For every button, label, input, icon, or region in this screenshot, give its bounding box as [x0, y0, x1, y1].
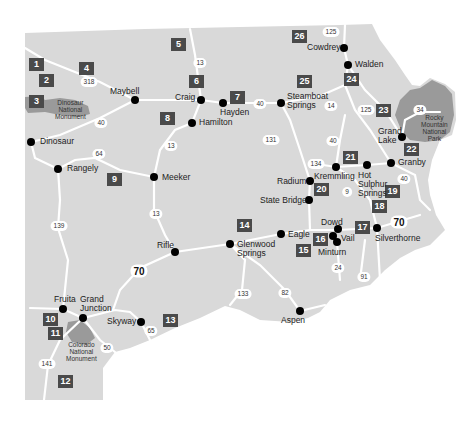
- highway-shield-91: 91: [357, 272, 370, 282]
- town-dot-walden[interactable]: [344, 61, 352, 69]
- highway-shield-133: 133: [235, 289, 252, 299]
- region-badge-20[interactable]: 20: [314, 183, 329, 196]
- highway-shield-131: 131: [263, 135, 280, 145]
- town-dot-radium[interactable]: [306, 177, 314, 185]
- highway-shield-40-west: 40: [94, 118, 107, 128]
- town-dot-granby[interactable]: [387, 159, 395, 167]
- interstate-shield-70-east: 70: [390, 216, 407, 229]
- label-line: Junction: [80, 304, 112, 313]
- highway-shield-139: 139: [51, 221, 68, 231]
- highway-shield-318: 318: [81, 77, 98, 87]
- town-dot-glenwood-springs[interactable]: [226, 240, 234, 248]
- highway-shield-13-north: 13: [193, 58, 206, 68]
- region-badge-3[interactable]: 3: [29, 95, 44, 108]
- town-dot-dinosaur[interactable]: [27, 138, 35, 146]
- park-label-line: Colorado: [66, 341, 97, 348]
- park-label-line: National: [55, 106, 86, 113]
- park-label-line: Monument: [55, 113, 86, 120]
- town-label-rifle: Rifle: [157, 241, 174, 250]
- highway-shield-82: 82: [278, 288, 291, 298]
- park-label-line: Park: [421, 135, 448, 142]
- region-badge-21[interactable]: 21: [343, 151, 358, 164]
- highway-shield-34: 34: [413, 105, 426, 115]
- region-badge-17[interactable]: 17: [355, 221, 370, 234]
- park-label-line: Dinosaur: [55, 99, 86, 106]
- region-badge-1[interactable]: 1: [29, 58, 44, 71]
- town-dot-eagle[interactable]: [277, 230, 285, 238]
- town-dot-hayden[interactable]: [219, 99, 227, 107]
- highway-shield-9: 9: [342, 187, 352, 197]
- town-dot-steamboat-springs[interactable]: [277, 99, 285, 107]
- region-badge-4[interactable]: 4: [79, 62, 94, 75]
- colorado-national-monument-label: Colorado National Monument: [66, 341, 97, 362]
- park-label-line: National: [66, 348, 97, 355]
- town-dot-craig[interactable]: [197, 96, 205, 104]
- region-badge-8[interactable]: 8: [160, 112, 175, 125]
- highway-shield-125-south: 125: [358, 105, 375, 115]
- town-dot-rangely[interactable]: [54, 165, 62, 173]
- town-label-hamilton: Hamilton: [199, 118, 233, 127]
- town-label-meeker: Meeker: [162, 173, 190, 182]
- town-label-minturn: Minturn: [318, 248, 346, 257]
- town-dot-kremmling[interactable]: [332, 163, 340, 171]
- town-dot-maybell[interactable]: [131, 96, 139, 104]
- park-label-line: Rocky: [421, 114, 448, 121]
- highway-shield-13-meeker: 13: [149, 209, 162, 219]
- region-badge-10[interactable]: 10: [43, 313, 58, 326]
- highway-shield-50: 50: [100, 343, 113, 353]
- park-label-line: Monument: [66, 355, 97, 362]
- town-label-grand-junction: Grand Junction: [80, 295, 112, 313]
- town-label-glenwood-springs: Glenwood Springs: [237, 240, 275, 258]
- region-badge-25[interactable]: 25: [297, 75, 312, 88]
- region-badge-6[interactable]: 6: [189, 75, 204, 88]
- highway-shield-125-north: 125: [323, 27, 340, 37]
- region-badge-7[interactable]: 7: [230, 91, 245, 104]
- highway-shield-24: 24: [331, 263, 344, 273]
- town-dot-hamilton[interactable]: [188, 119, 196, 127]
- region-badge-18[interactable]: 18: [372, 200, 387, 213]
- region-badge-5[interactable]: 5: [171, 38, 186, 51]
- town-label-cowdrey: Cowdrey: [307, 43, 341, 52]
- town-dot-hot-sulphur-springs[interactable]: [363, 161, 371, 169]
- town-label-dinosaur: Dinosaur: [40, 137, 74, 146]
- park-label-line: Mountain: [421, 121, 448, 128]
- town-dot-aspen[interactable]: [296, 307, 304, 315]
- region-badge-24[interactable]: 24: [344, 73, 359, 86]
- region-badge-11[interactable]: 11: [48, 327, 63, 340]
- interstate-shield-70-west: 70: [130, 265, 147, 278]
- label-line: Springs: [358, 189, 387, 198]
- region-badge-2[interactable]: 2: [39, 74, 54, 87]
- town-label-skyway: Skyway: [107, 317, 136, 326]
- town-label-maybell: Maybell: [110, 87, 139, 96]
- town-dot-silverthorne[interactable]: [373, 224, 381, 232]
- label-line: Lake: [378, 136, 402, 145]
- town-label-eagle: Eagle: [288, 230, 310, 239]
- region-badge-15[interactable]: 15: [296, 244, 311, 257]
- highway-shield-40-east: 40: [253, 99, 266, 109]
- town-dot-cowdrey[interactable]: [340, 44, 348, 52]
- region-badge-14[interactable]: 14: [237, 219, 252, 232]
- label-line: Springs: [287, 101, 328, 110]
- region-badge-13[interactable]: 13: [163, 314, 178, 327]
- highway-shield-40-granby: 40: [397, 174, 410, 184]
- region-badge-12[interactable]: 12: [58, 375, 73, 388]
- town-dot-minturn[interactable]: [333, 238, 341, 246]
- town-label-hot-sulphur-springs: Hot Sulphur Springs: [358, 171, 387, 198]
- highway-shield-40-kremmling: 40: [326, 136, 339, 146]
- town-label-dowd: Dowd: [321, 218, 343, 227]
- region-badge-9[interactable]: 9: [107, 173, 122, 186]
- town-dot-grand-junction[interactable]: [79, 314, 87, 322]
- region-badge-26[interactable]: 26: [292, 30, 307, 43]
- region-badge-22[interactable]: 22: [404, 143, 419, 156]
- town-dot-meeker[interactable]: [150, 173, 158, 181]
- town-label-granby: Granby: [398, 158, 426, 167]
- region-badge-23[interactable]: 23: [376, 104, 391, 117]
- town-label-silverthorne: Silverthorne: [375, 234, 420, 243]
- town-dot-fruita[interactable]: [59, 305, 67, 313]
- town-dot-skyway[interactable]: [137, 318, 145, 326]
- region-badge-16[interactable]: 16: [313, 233, 328, 246]
- town-label-steamboat-springs: Steamboat Springs: [287, 92, 328, 110]
- rocky-mountain-national-park-label: Rocky Mountain National Park: [421, 114, 448, 142]
- town-label-fruita: Fruita: [54, 295, 76, 304]
- town-label-vail: Vail: [341, 234, 355, 243]
